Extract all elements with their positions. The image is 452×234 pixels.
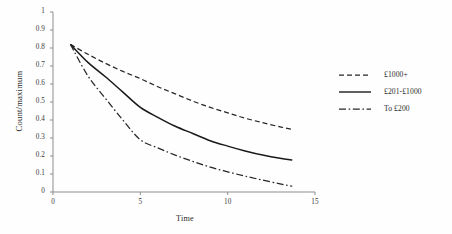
legend: £1000+£201-£1000To £200 [338,66,450,117]
x-tick-label: 10 [217,198,239,206]
legend-item[interactable]: £201-£1000 [338,83,450,100]
y-tick-label: 0 [19,187,45,195]
y-axis-title: Count/maximum [14,41,24,161]
y-tick-label: 1 [19,7,45,15]
x-axis-title: Time [150,214,220,223]
x-tick-label: 5 [129,198,151,206]
x-tick-label: 15 [304,198,326,206]
series-paths [70,44,292,186]
x-tick-label: 0 [42,198,64,206]
series-line-1 [70,44,292,129]
legend-label: To £200 [384,104,410,113]
y-tick-label: 0.9 [19,25,45,33]
y-tick-label: 0.1 [19,169,45,177]
dashed-line-key [338,70,372,80]
plot-area: 00.10.20.30.40.50.60.70.80.91 051015 Cou… [0,0,330,234]
figure-container: 00.10.20.30.40.50.60.70.80.91 051015 Cou… [0,0,452,234]
legend-label: £201-£1000 [384,87,422,96]
series-line-2 [70,44,292,160]
solid-line-key [338,87,372,97]
legend-item[interactable]: To £200 [338,100,450,117]
series-line-3 [70,44,292,186]
dashdot-line-key [338,104,372,114]
legend-label: £1000+ [384,70,408,79]
legend-item[interactable]: £1000+ [338,66,450,83]
